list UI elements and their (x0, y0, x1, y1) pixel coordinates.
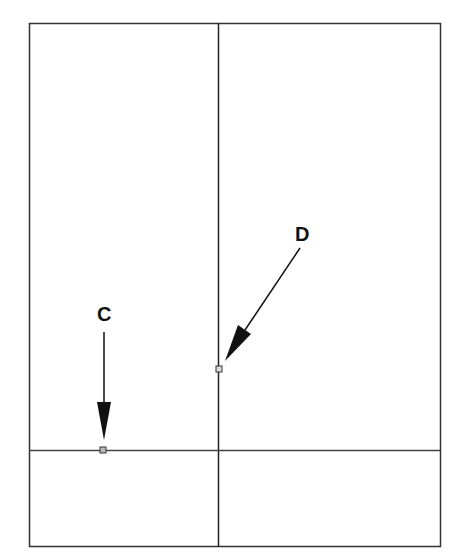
diagram-canvas: C D (0, 0, 455, 552)
point-d-marker (216, 366, 222, 372)
outer-frame (30, 24, 441, 547)
label-c: C (97, 303, 111, 325)
point-c-marker (100, 447, 106, 453)
label-d: D (295, 223, 309, 245)
arrow-d (225, 248, 300, 361)
arrow-c (97, 332, 111, 440)
